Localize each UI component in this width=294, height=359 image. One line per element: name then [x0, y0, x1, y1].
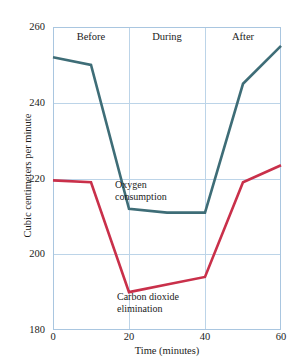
y-tick-220: 220 [29, 173, 45, 184]
clipped-caption [48, 0, 268, 8]
carbon-dioxide-elimination-label-line2: elimination [117, 303, 179, 315]
oxygen-consumption-label: Oxygen consumption [115, 179, 167, 202]
y-tick-240: 240 [29, 98, 45, 109]
y-tick-200: 200 [29, 249, 45, 260]
x-axis-title: Time (minutes) [53, 345, 281, 356]
x-tick-20: 20 [124, 332, 135, 343]
y-tick-180: 180 [29, 325, 45, 336]
oxygen-consumption-line [53, 46, 281, 213]
respiration-line-chart: Cubic centimeters per minute 260 240 220… [0, 0, 294, 359]
x-tick-60: 60 [276, 332, 287, 343]
oxygen-consumption-label-line1: Oxygen [115, 179, 167, 191]
band-label-before: Before [77, 31, 106, 42]
carbon-dioxide-elimination-label: Carbon dioxide elimination [117, 291, 179, 314]
oxygen-consumption-label-line2: consumption [115, 191, 167, 203]
y-tick-260: 260 [29, 22, 45, 33]
band-label-after: After [232, 31, 254, 42]
x-tick-40: 40 [200, 332, 211, 343]
x-tick-0: 0 [50, 332, 55, 343]
carbon-dioxide-elimination-line [53, 165, 281, 292]
band-label-during: During [152, 31, 182, 42]
y-axis-ticks: 260 240 220 200 180 [0, 27, 49, 330]
carbon-dioxide-elimination-label-line1: Carbon dioxide [117, 291, 179, 303]
series-lines [53, 27, 281, 330]
